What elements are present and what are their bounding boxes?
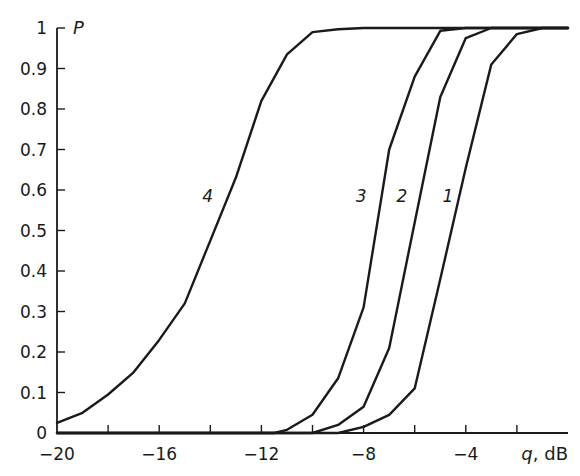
curve-label-1: 1 <box>443 186 454 206</box>
x-tick-label: −4 <box>453 444 478 464</box>
x-axis-title: q, dB <box>521 443 568 464</box>
curve-label-3: 3 <box>356 186 367 206</box>
y-tick-label: 0.9 <box>20 59 47 79</box>
x-tick-label: −12 <box>243 444 279 464</box>
x-tick-label: −8 <box>351 444 376 464</box>
y-tick-label: 0.4 <box>20 261 47 281</box>
y-tick-label: 0.3 <box>20 302 47 322</box>
curve-label-4: 4 <box>202 186 213 206</box>
x-tick-label: −20 <box>39 444 75 464</box>
curve-labels: 1234 <box>202 186 453 206</box>
y-tick-label: 0.1 <box>20 383 47 403</box>
y-tick-label: 0 <box>36 423 47 443</box>
x-axis-unit: , dB <box>533 443 568 464</box>
y-tick-label: 0.7 <box>20 140 47 160</box>
y-tick-label: 0.6 <box>20 180 47 200</box>
y-axis-ticks: 00.10.20.30.40.50.60.70.80.91 <box>20 18 65 443</box>
y-tick-label: 0.8 <box>20 99 47 119</box>
probability-chart: 00.10.20.30.40.50.60.70.80.91 −20−16−12−… <box>0 0 580 476</box>
x-tick-label: −16 <box>141 444 177 464</box>
y-axis-title: P <box>73 17 84 38</box>
y-tick-label: 0.2 <box>20 342 47 362</box>
series-layer <box>57 28 568 433</box>
y-tick-label: 1 <box>36 18 47 38</box>
x-axis-variable: q <box>521 443 532 464</box>
curve-4 <box>57 28 568 423</box>
y-tick-label: 0.5 <box>20 221 47 241</box>
curve-label-2: 2 <box>397 186 408 206</box>
